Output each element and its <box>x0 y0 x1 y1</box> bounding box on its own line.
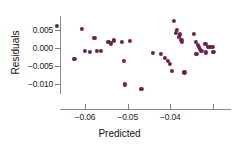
y-tick-label-holder: 0.000 <box>0 43 53 53</box>
scatter-point <box>80 27 84 31</box>
scatter-point <box>55 24 59 28</box>
scatter-point <box>139 87 143 91</box>
y-tick-label-holder: −0.005 <box>0 61 53 71</box>
y-tick-label-holder: 0.005 <box>0 25 53 35</box>
scatter-point <box>83 48 87 52</box>
scatter-point <box>151 51 155 55</box>
scatter-point <box>122 59 126 63</box>
scatter-point <box>182 70 186 74</box>
scatter-point <box>172 19 176 23</box>
scatter-point <box>123 82 127 86</box>
x-axis-tick-label: −0.04 <box>160 112 181 122</box>
scatter-point <box>180 40 184 44</box>
y-axis-tick-label: 0.000 <box>0 43 53 53</box>
scatter-point <box>128 39 132 43</box>
scatter-point <box>94 48 98 52</box>
scatter-point <box>120 40 124 44</box>
scatter-point <box>99 49 103 53</box>
y-axis-line <box>60 16 61 94</box>
y-tick-label-holder: −0.010 <box>0 79 53 89</box>
scatter-point <box>194 52 198 56</box>
x-axis-tick <box>170 104 171 110</box>
y-axis-tick <box>55 30 61 31</box>
y-axis-tick-label: 0.005 <box>0 25 53 35</box>
scatter-point <box>211 50 215 54</box>
x-axis-title: Predicted <box>0 128 239 139</box>
scatter-point <box>158 52 162 56</box>
y-axis-tick-label: −0.010 <box>0 79 53 89</box>
y-axis-tick <box>55 66 61 67</box>
x-axis-tick-label: −0.05 <box>117 112 138 122</box>
scatter-point <box>168 62 172 66</box>
y-axis-tick <box>55 48 61 49</box>
scatter-point <box>72 57 76 61</box>
x-axis-tick <box>85 104 86 110</box>
scatter-point <box>210 45 214 49</box>
scatter-point <box>204 50 208 54</box>
scatter-point <box>92 36 96 40</box>
y-axis-tick-label: −0.005 <box>0 61 53 71</box>
scatter-point <box>88 50 92 54</box>
scatter-point <box>111 38 115 42</box>
y-axis-title: Residuals <box>10 19 21 87</box>
scatter-point <box>178 32 182 36</box>
residuals-scatter-chart: 0.0050.000−0.005−0.010 −0.06−0.05−0.04 R… <box>0 0 239 147</box>
x-axis-tick <box>128 104 129 110</box>
scatter-point <box>192 32 196 36</box>
scatter-point <box>170 69 174 73</box>
x-axis-tick <box>213 104 214 110</box>
scatter-point <box>199 49 203 53</box>
y-axis-tick <box>55 84 61 85</box>
x-axis-tick-label: −0.06 <box>75 112 96 122</box>
